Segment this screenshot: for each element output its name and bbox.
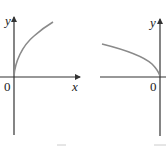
graph-right: y 0 <box>100 15 166 136</box>
x-axis-label: x <box>71 79 78 94</box>
y-axis-label: y <box>148 15 156 30</box>
diagram-canvas: y 0 x y 0 <box>0 0 166 146</box>
curve-sqrt-x <box>14 22 53 76</box>
curve-sqrt-neg-x <box>102 44 160 76</box>
origin-label: 0 <box>150 79 157 94</box>
y-axis-label: y <box>3 13 11 28</box>
graph-left: y 0 x <box>0 13 80 135</box>
origin-label: 0 <box>4 79 11 94</box>
